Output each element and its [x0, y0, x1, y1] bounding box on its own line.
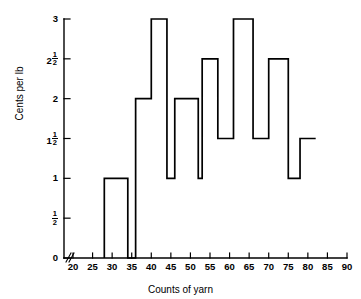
x-tick-label: 80 [303, 262, 314, 272]
y-tick-label: 0 [24, 253, 58, 263]
y-tick-label: 12 [24, 210, 58, 226]
y-tick-label: 1 [24, 174, 58, 184]
x-tick-label: 45 [166, 262, 177, 272]
y-tick-label: 3 [24, 14, 58, 24]
x-tick-label: 60 [224, 262, 235, 272]
x-tick-label: 85 [322, 262, 333, 272]
x-tick-label: 35 [126, 262, 137, 272]
x-tick-label: 55 [205, 262, 216, 272]
y-tick-label: 212 [24, 51, 58, 67]
x-tick-label: 50 [185, 262, 196, 272]
x-tick-label: 40 [146, 262, 157, 272]
x-tick-label: 90 [342, 262, 353, 272]
x-tick-label: 65 [244, 262, 255, 272]
x-tick-label: 30 [107, 262, 118, 272]
x-tick-label: 25 [87, 262, 98, 272]
y-tick-label: 112 [24, 131, 58, 147]
y-axis-title: Cents per lb [14, 39, 25, 149]
x-tick-label: 75 [283, 262, 294, 272]
y-tick-label: 2 [24, 94, 58, 104]
x-tick-label: 70 [263, 262, 274, 272]
x-tick-label: 20 [68, 262, 79, 272]
chart-container: 202530354045505560657075808590 012111222… [0, 0, 361, 299]
x-axis-title: Counts of yarn [0, 284, 361, 295]
